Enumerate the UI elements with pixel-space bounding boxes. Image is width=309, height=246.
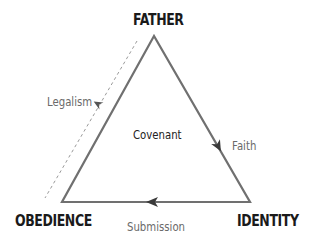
center-label-covenant: Covenant <box>133 127 182 142</box>
vertex-father: FATHER <box>133 10 184 29</box>
covenant-triangle-diagram <box>0 0 309 246</box>
vertex-obedience: OBEDIENCE <box>15 211 92 230</box>
triangle-outline <box>62 36 250 202</box>
legalism-arrow-icon <box>92 98 104 109</box>
edge-label-legalism: Legalism <box>47 94 92 109</box>
legalism-dashed-line <box>45 41 137 198</box>
edge-label-faith: Faith <box>232 138 256 153</box>
faith-arrow-icon <box>211 139 225 153</box>
edge-label-submission: Submission <box>127 219 185 234</box>
vertex-identity: IDENTITY <box>237 211 299 230</box>
